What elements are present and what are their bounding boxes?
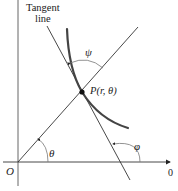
psi-angle-arc	[70, 60, 103, 68]
point-p	[79, 89, 84, 94]
origin-label: O	[6, 165, 14, 177]
phi-label: φ	[134, 140, 140, 152]
theta-angle-arc	[38, 139, 48, 162]
point-p-label: P(r, θ)	[89, 85, 117, 97]
tangent-line-label-2: line	[35, 13, 51, 24]
tangent-line-label: Tangent	[26, 2, 60, 13]
polar-curve	[67, 29, 128, 128]
theta-label: θ	[49, 147, 55, 159]
radius-line	[18, 27, 138, 162]
polar-tangent-diagram: Tangent line ψ P(r, θ) θ φ O 0	[0, 0, 178, 191]
polar-axis-label: 0	[168, 167, 173, 178]
psi-label: ψ	[85, 46, 92, 58]
